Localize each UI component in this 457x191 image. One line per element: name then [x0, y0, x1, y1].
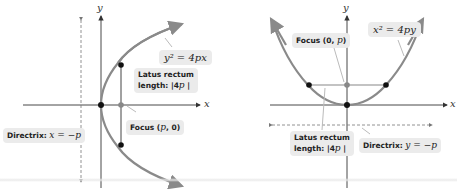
y-axis-label: y	[343, 2, 349, 13]
latus-endpoint	[383, 82, 389, 88]
latus-rectum-label: Latus rectum length: |4p |	[290, 131, 354, 156]
page-shadow	[0, 178, 457, 182]
x-axis-label: x	[204, 98, 210, 109]
y-axis-label: y	[97, 2, 103, 13]
equation-label: y² = 4px	[159, 50, 212, 65]
left-parabola-diagram	[23, 16, 200, 188]
latus-endpoint	[306, 82, 312, 88]
latus-rectum-label: Latus rectum length: |4p |	[134, 68, 198, 93]
vertex-point	[344, 102, 350, 108]
vertex-point	[98, 102, 104, 108]
focus-label: Focus (p, 0)	[126, 120, 184, 135]
directrix-label: Directrix: x = −p	[3, 128, 85, 143]
focus-point	[344, 82, 350, 88]
latus-endpoint	[118, 142, 124, 148]
x-axis-label: x	[450, 98, 456, 109]
equation-label: x² = 4py	[368, 22, 421, 37]
focus-point	[118, 102, 124, 108]
focus-label: Focus (0, p)	[292, 33, 350, 48]
directrix-label: Directrix: y = −p	[359, 138, 441, 153]
latus-endpoint	[118, 62, 124, 68]
